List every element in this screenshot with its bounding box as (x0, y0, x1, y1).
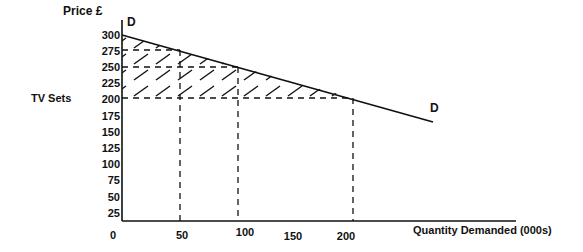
y-tick: 75 (90, 174, 120, 186)
y-tick: 150 (90, 126, 120, 138)
y-tick: 250 (90, 61, 120, 73)
y-axis-title: Price £ (63, 4, 102, 18)
demand-label-top: D (127, 15, 136, 29)
y-tick: 200 (90, 93, 120, 105)
y-tick: 175 (90, 110, 120, 122)
x-axis-title: Quantity Demanded (000s) (413, 224, 552, 236)
y-tick: 225 (90, 77, 120, 89)
x-tick: 100 (230, 226, 260, 238)
y-tick: 100 (90, 158, 120, 170)
x-tick: 50 (167, 229, 197, 241)
y-tick: 50 (90, 191, 120, 203)
chart-canvas (0, 0, 583, 252)
y-tick: 25 (90, 207, 120, 219)
x-tick: 0 (98, 229, 128, 241)
y-tick: 300 (90, 29, 120, 41)
y-tick: 275 (90, 45, 120, 57)
side-label: TV Sets (31, 92, 71, 104)
x-tick: 150 (278, 230, 308, 242)
demand-label-end: D (430, 101, 439, 115)
y-tick: 125 (90, 142, 120, 154)
x-tick: 200 (331, 230, 361, 242)
